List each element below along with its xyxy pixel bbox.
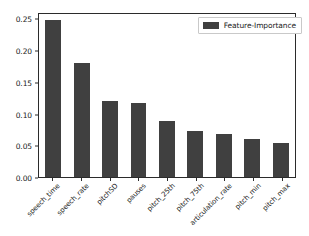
x-axis-labels: speech_timespeech_ratepitchSDpausespitch… (38, 182, 296, 236)
y-tick-label: 0.00 (16, 174, 32, 183)
x-tick-label: pauses (125, 182, 148, 205)
x-tick-mark (196, 178, 197, 181)
feature-importance-bar-chart: 0.000.050.100.150.200.25 speech_timespee… (0, 0, 309, 236)
y-tick-label: 0.10 (16, 110, 32, 119)
x-tick-mark (110, 178, 111, 181)
bar (131, 103, 147, 177)
bar-slot (181, 14, 209, 177)
legend-label: Feature-Importance (224, 21, 296, 30)
x-tick-mark (282, 178, 283, 181)
x-tick-label: pitch_25th (146, 182, 177, 213)
bar (273, 143, 289, 177)
x-tick-mark (138, 178, 139, 181)
x-tick-label: pitch_min (234, 182, 263, 211)
bar (45, 20, 61, 177)
x-tick-mark (52, 178, 53, 181)
x-tick-mark (224, 178, 225, 181)
x-tick-mark (253, 178, 254, 181)
y-axis: 0.000.050.100.150.200.25 (0, 13, 38, 178)
bar-group (39, 14, 295, 177)
bar-slot (39, 14, 67, 177)
bar (244, 139, 260, 177)
bar-slot (238, 14, 266, 177)
y-tick-label: 0.25 (16, 15, 32, 24)
bar-slot (124, 14, 152, 177)
bar (216, 134, 232, 177)
bar (159, 121, 175, 177)
bar-slot (67, 14, 95, 177)
y-tick-label: 0.05 (16, 142, 32, 151)
x-tick-label: pitchSD (95, 182, 119, 206)
bar-slot (210, 14, 238, 177)
bar (74, 63, 90, 177)
legend-swatch-feature-importance (203, 22, 219, 29)
x-tick-mark (167, 178, 168, 181)
y-tick-label: 0.15 (16, 78, 32, 87)
legend: Feature-Importance (198, 17, 302, 34)
bar-slot (267, 14, 295, 177)
bar-slot (153, 14, 181, 177)
y-tick-label: 0.20 (16, 47, 32, 56)
bar (187, 131, 203, 177)
bar-slot (96, 14, 124, 177)
bar (102, 101, 118, 177)
x-tick-label: pitch_max (261, 182, 292, 213)
plot-area (38, 13, 296, 178)
x-tick-mark (81, 178, 82, 181)
